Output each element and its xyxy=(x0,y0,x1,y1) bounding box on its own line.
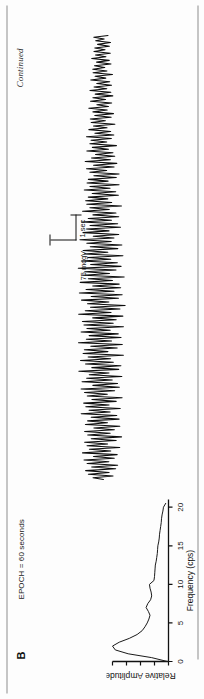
page-rule-top xyxy=(6,5,7,693)
eeg-waveform-line xyxy=(78,35,125,479)
eeg-trace-chart xyxy=(62,33,140,481)
spectrum-svg: 05101520 Frequency (cps) Relative Amplit… xyxy=(106,476,198,681)
spectrum-x-tick-label: 15 xyxy=(175,540,184,549)
spectrum-chart: 05101520 Frequency (cps) Relative Amplit… xyxy=(106,476,198,681)
spectrum-x-tick-label: 5 xyxy=(175,620,184,625)
spectrum-y-axis-title: Relative Amplitude xyxy=(106,670,175,680)
eeg-trace-svg xyxy=(62,33,140,481)
figure-stage: Continued B EPOCH = 60 seconds 75 mcgV 1… xyxy=(0,0,204,699)
panel-label-b: B xyxy=(14,651,26,659)
epoch-label: EPOCH = 60 seconds xyxy=(16,519,25,599)
spectrum-x-tick-label: 0 xyxy=(175,658,184,663)
spectrum-x-tick-label: 10 xyxy=(175,579,184,588)
spectrum-curve-line xyxy=(112,503,167,661)
figure-page: Continued B EPOCH = 60 seconds 75 mcgV 1… xyxy=(0,0,204,699)
spectrum-x-tick-labels: 05101520 xyxy=(175,502,184,664)
spectrum-x-tick-label: 20 xyxy=(175,502,184,511)
continued-note: Continued xyxy=(14,48,24,87)
spectrum-x-axis-title: Frequency (cps) xyxy=(184,549,194,611)
